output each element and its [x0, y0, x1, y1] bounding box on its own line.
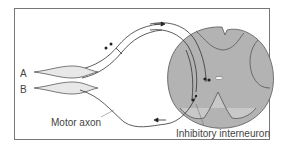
label-muscle-b: B [20, 84, 27, 95]
ganglion-dots [105, 43, 113, 50]
spinal-cord-cross-section [168, 27, 274, 128]
label-motor-axon: Motor axon [51, 117, 101, 128]
muscle-b [34, 82, 98, 94]
arrow-efferent [154, 118, 166, 122]
label-muscle-a: A [20, 68, 27, 79]
label-inhibitory-interneuron: Inhibitory interneuron [176, 128, 270, 139]
